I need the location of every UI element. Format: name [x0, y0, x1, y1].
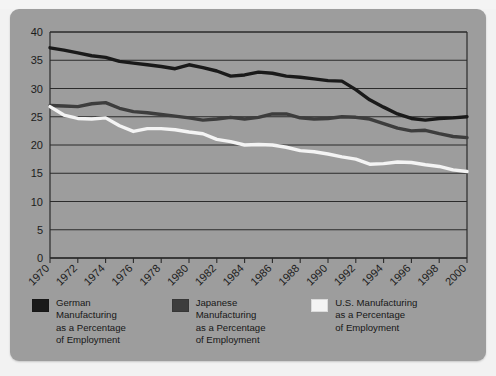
x-tick-label-1986: 1986 [248, 262, 274, 288]
x-tick-label-1976: 1976 [109, 262, 135, 288]
y-tick-label-10: 10 [31, 196, 43, 208]
y-tick-label-30: 30 [31, 83, 43, 95]
y-tick-label-15: 15 [31, 167, 43, 179]
x-tick-label-1996: 1996 [387, 262, 413, 288]
legend-label-japanese: Japanese Manufacturing as a Percentage o… [196, 297, 266, 347]
x-tick-label-1984: 1984 [220, 262, 246, 288]
x-tick-label-1974: 1974 [81, 262, 107, 288]
x-tick-label-1970: 1970 [26, 262, 52, 288]
legend-item-japanese: Japanese Manufacturing as a Percentage o… [172, 297, 312, 347]
x-tick-label-1994: 1994 [359, 262, 385, 288]
y-tick-label-25: 25 [31, 111, 43, 123]
x-tick-label-1972: 1972 [53, 262, 79, 288]
chart-panel: 0510152025303540 19701972197419761978198… [10, 9, 486, 361]
top-cropped-strip [0, 0, 496, 9]
y-tick-label-5: 5 [37, 224, 43, 236]
legend-label-german: German Manufacturing as a Percentage of … [56, 297, 126, 347]
legend-swatch-japanese-icon [172, 299, 189, 312]
x-tick-label-1980: 1980 [165, 262, 191, 288]
legend-label-us: U.S. Manufacturing as a Percentage of Em… [335, 297, 417, 334]
x-tick-label-1988: 1988 [276, 262, 302, 288]
chart-legend: German Manufacturing as a Percentage of … [32, 297, 472, 347]
x-tick-label-2000: 2000 [443, 262, 469, 288]
x-tick-label-1992: 1992 [331, 262, 357, 288]
y-axis-tick-labels: 0510152025303540 [31, 26, 43, 264]
x-tick-label-1990: 1990 [304, 262, 330, 288]
y-tick-label-20: 20 [31, 139, 43, 151]
series-line-german [50, 48, 467, 120]
figure-root: 0510152025303540 19701972197419761978198… [0, 0, 496, 376]
legend-swatch-german-icon [32, 299, 49, 312]
legend-item-us: U.S. Manufacturing as a Percentage of Em… [311, 297, 472, 347]
y-tick-label-40: 40 [31, 26, 43, 38]
x-tick-label-1978: 1978 [137, 262, 163, 288]
x-tick-label-1998: 1998 [415, 262, 441, 288]
series-lines [50, 48, 467, 172]
x-axis-tick-labels: 1970197219741976197819801982198419861988… [26, 262, 469, 288]
x-tick-label-1982: 1982 [192, 262, 218, 288]
y-tick-label-35: 35 [31, 54, 43, 66]
legend-item-german: German Manufacturing as a Percentage of … [32, 297, 172, 347]
legend-swatch-us-icon [311, 299, 328, 312]
